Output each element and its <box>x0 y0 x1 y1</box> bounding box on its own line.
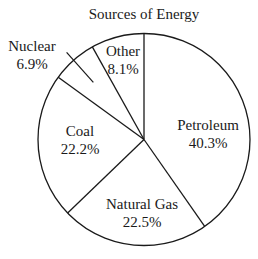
label-nuclear-name: Nuclear <box>2 37 62 55</box>
label-other-name: Other <box>100 42 146 60</box>
label-other-value: 8.1% <box>100 60 146 78</box>
label-coal: Coal 22.2% <box>50 122 110 158</box>
label-coal-name: Coal <box>50 122 110 140</box>
label-nuclear-value: 6.9% <box>2 55 62 73</box>
label-coal-value: 22.2% <box>50 140 110 158</box>
label-other: Other 8.1% <box>100 42 146 78</box>
label-natural-gas: Natural Gas 22.5% <box>92 195 192 231</box>
label-petroleum-value: 40.3% <box>170 134 246 152</box>
label-natural-gas-value: 22.5% <box>92 213 192 231</box>
label-petroleum-name: Petroleum <box>170 116 246 134</box>
label-petroleum: Petroleum 40.3% <box>170 116 246 152</box>
label-nuclear: Nuclear 6.9% <box>2 37 62 73</box>
label-natural-gas-name: Natural Gas <box>92 195 192 213</box>
